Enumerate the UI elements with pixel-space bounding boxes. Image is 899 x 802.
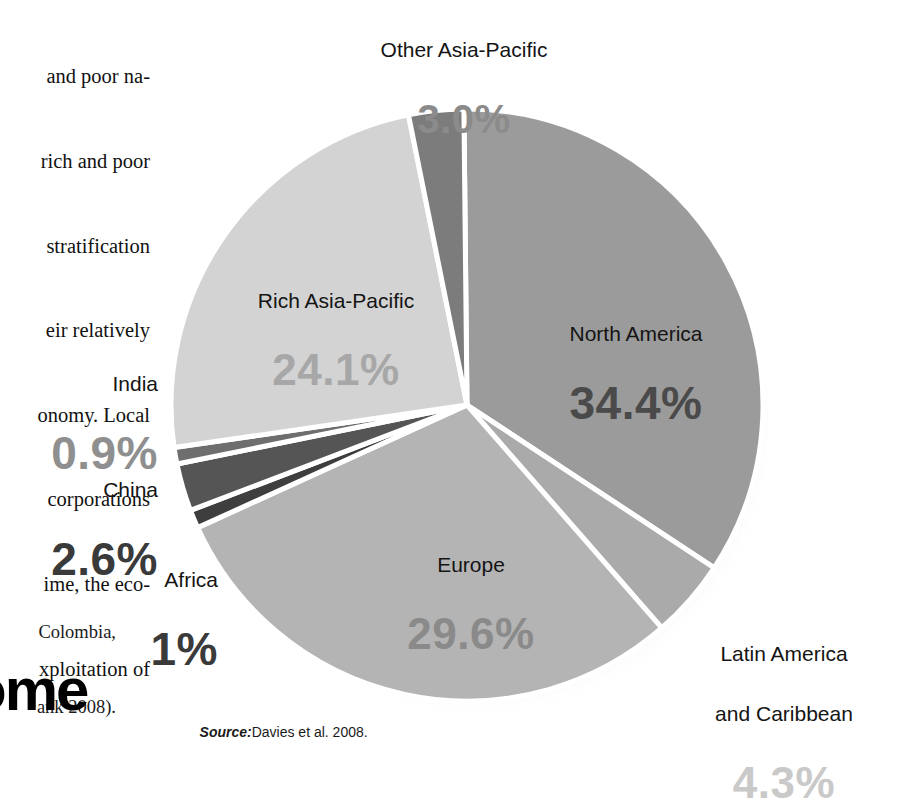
pie-label-value: 24.1% [214,349,458,391]
pie-label-value: 1% [24,628,218,670]
pie-label-value: 29.6% [356,613,586,655]
pie-label-name-line1: Latin America [666,642,899,666]
pie-label-europe: Europe 29.6% [356,517,586,691]
pie-label-value: 34.4% [522,382,750,424]
pie-label-rich-asia-pacific: Rich Asia-Pacific 24.1% [214,253,458,427]
pie-label-name: Africa [24,568,218,592]
pie-label-africa: Africa 1% [24,532,218,706]
pie-label-name: India [0,372,158,396]
pie-label-name: Rich Asia-Pacific [214,289,458,313]
pie-label-name: Europe [356,553,586,577]
pie-label-value: 3.0% [304,98,624,140]
pie-label-name: China [0,478,158,502]
pie-label-north-america: North America 34.4% [522,286,750,460]
pie-label-other-asia-pacific: Other Asia-Pacific 3.0% [304,2,624,176]
pie-label-latin-america: Latin America and Caribbean 4.3% [666,606,899,802]
pie-label-name: Other Asia-Pacific [304,38,624,62]
pie-label-name: North America [522,322,750,346]
pie-label-name-line2: and Caribbean [666,702,899,726]
pie-label-value: 4.3% [666,762,899,802]
